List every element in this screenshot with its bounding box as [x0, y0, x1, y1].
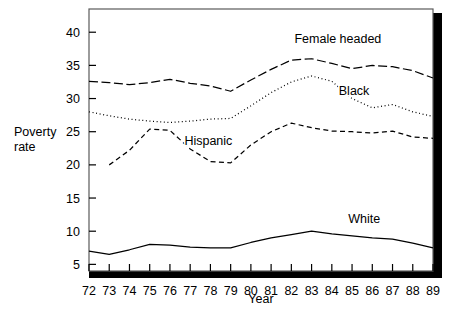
x-tick-label-85: 85: [345, 284, 359, 298]
y-tick-label-20: 20: [66, 158, 80, 172]
x-tick-label-75: 75: [143, 284, 157, 298]
x-tick-label-83: 83: [305, 284, 319, 298]
female-headed-label: Female headed: [294, 32, 381, 46]
chart-canvas: 510152025303540 727374757677787980818283…: [0, 0, 452, 315]
y-tick-label-40: 40: [66, 26, 80, 40]
x-tick-label-79: 79: [224, 284, 238, 298]
x-tick-label-74: 74: [123, 284, 137, 298]
plot-shadow-right: [433, 13, 442, 278]
y-tick-label-30: 30: [66, 92, 80, 106]
x-tick-label-72: 72: [82, 284, 96, 298]
x-tick-label-78: 78: [203, 284, 217, 298]
y-tick-label-10: 10: [66, 225, 80, 239]
plot-frame: [89, 9, 433, 271]
hispanic-label: Hispanic: [184, 134, 232, 148]
x-tick-label-82: 82: [284, 284, 298, 298]
x-tick-label-89: 89: [426, 284, 440, 298]
y-axis-title-line1: Poverty: [14, 125, 57, 139]
x-tick-label-87: 87: [386, 284, 400, 298]
x-tick-label-77: 77: [183, 284, 197, 298]
x-tick-label-84: 84: [325, 284, 339, 298]
y-tick-label-25: 25: [66, 125, 80, 139]
x-tick-label-76: 76: [163, 284, 177, 298]
y-tick-label-35: 35: [66, 59, 80, 73]
white-label: White: [348, 212, 380, 226]
x-tick-label-73: 73: [102, 284, 116, 298]
black-label: Black: [339, 84, 370, 98]
y-axis-title-line2: rate: [14, 140, 36, 154]
x-axis-title: Year: [248, 292, 273, 306]
y-tick-label-15: 15: [66, 192, 80, 206]
poverty-rate-chart-figure: 510152025303540 727374757677787980818283…: [0, 0, 452, 315]
x-tick-label-88: 88: [406, 284, 420, 298]
x-tick-label-86: 86: [365, 284, 379, 298]
y-tick-label-5: 5: [73, 258, 80, 272]
